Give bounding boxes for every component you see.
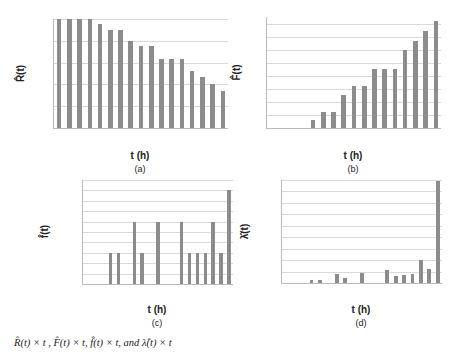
subfigure-label: (b) [266, 164, 440, 174]
bar [331, 112, 336, 128]
bar [67, 19, 72, 128]
bar [128, 41, 133, 128]
bar [419, 260, 423, 283]
bar [372, 69, 377, 128]
bar [341, 95, 346, 128]
bar [57, 19, 62, 128]
plot-area [266, 17, 441, 129]
gridline [83, 180, 233, 181]
bar [434, 21, 439, 128]
bar [133, 222, 137, 284]
gridline [282, 203, 442, 204]
bar [382, 69, 387, 128]
bar [411, 274, 415, 283]
bar [352, 86, 357, 128]
y-axis-label: R̂(t) [15, 64, 26, 81]
gridline [282, 260, 442, 261]
bar [88, 19, 93, 128]
gridline [282, 226, 442, 227]
bar [227, 190, 231, 284]
bar [343, 278, 347, 283]
bar [413, 41, 418, 128]
bar [311, 120, 316, 128]
bar [310, 280, 314, 283]
bar [360, 273, 364, 283]
subfigure-label: (a) [53, 164, 227, 174]
y-axis-label: F̂(t) [231, 64, 242, 80]
bar [318, 280, 322, 283]
bar [385, 270, 389, 283]
bar [118, 30, 123, 128]
bar [321, 112, 326, 128]
bar [403, 50, 408, 128]
bar [423, 31, 428, 128]
bar [140, 253, 144, 284]
x-axis-label: t (h) [53, 150, 227, 161]
figure-caption: R̂(t) × t , F̂(t) × t, f̂(t) × t, and λ̂… [14, 337, 172, 348]
bar [427, 269, 431, 283]
bar [221, 91, 226, 128]
plot-area [281, 180, 442, 284]
bar [180, 59, 185, 128]
gridline [282, 214, 442, 215]
y-axis-label: f̂(t) [39, 225, 50, 238]
x-axis-label: t (h) [281, 304, 441, 315]
bar [196, 253, 200, 284]
bar [402, 275, 406, 283]
y-axis-label: λ̂(t) [239, 223, 250, 239]
bar [188, 253, 192, 284]
bar [139, 46, 144, 128]
gridline [83, 190, 233, 191]
subfigure-label: (d) [281, 318, 441, 328]
bar [149, 46, 154, 128]
bar [210, 84, 215, 128]
bar [200, 77, 205, 128]
bar [117, 253, 121, 284]
bar [159, 59, 164, 128]
bar [394, 276, 398, 283]
gridline [282, 249, 442, 250]
bar [393, 69, 398, 128]
gridline [267, 24, 441, 25]
plot-area [82, 180, 233, 285]
bar [436, 181, 440, 283]
x-axis-label: t (h) [82, 304, 232, 315]
gridline [267, 37, 441, 38]
bar [109, 253, 113, 284]
subfigure-label: (c) [82, 318, 232, 328]
bar [362, 86, 367, 128]
bar [77, 19, 82, 128]
bar [190, 71, 195, 128]
x-axis-label: t (h) [266, 150, 440, 161]
gridline [83, 211, 233, 212]
gridline [282, 180, 442, 181]
gridline [83, 201, 233, 202]
gridline [282, 191, 442, 192]
bar [98, 24, 103, 128]
bar [169, 59, 174, 128]
plot-area [53, 19, 228, 129]
bar [335, 274, 339, 283]
bar [211, 222, 215, 284]
bar [180, 222, 184, 284]
gridline [282, 237, 442, 238]
bar [156, 222, 160, 284]
bar [108, 30, 113, 128]
bar [204, 253, 208, 284]
bar [219, 253, 223, 284]
